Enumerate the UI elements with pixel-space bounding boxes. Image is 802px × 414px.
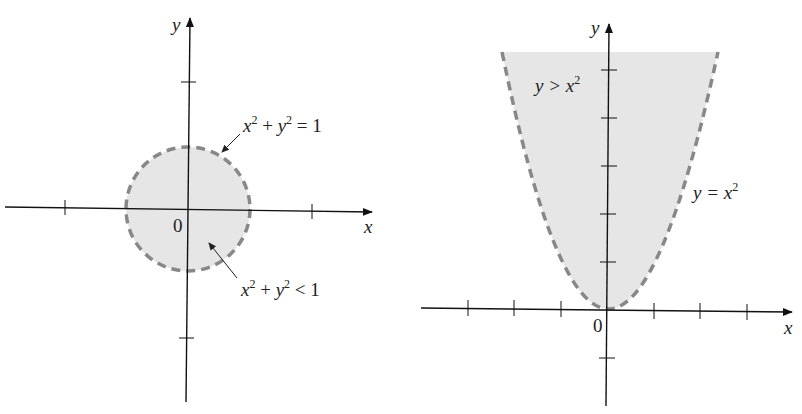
origin-label: 0 bbox=[173, 215, 183, 236]
right-figure: y x 0 y > x2 y = x2 bbox=[421, 17, 793, 406]
origin-label: 0 bbox=[593, 315, 603, 336]
boundary-equation-label: y = x2 bbox=[691, 180, 738, 203]
boundary-pointer-arrow bbox=[222, 134, 240, 152]
boundary-equation-label: x2 + y2 = 1 bbox=[242, 113, 322, 136]
left-figure: y x 0 x2 + y2 = 1 x2 + y2 < 1 bbox=[5, 14, 373, 402]
region-inequality-label: y > x2 bbox=[533, 73, 580, 96]
y-axis-label: y bbox=[589, 17, 600, 38]
y-axis-label: y bbox=[170, 14, 181, 35]
x-axis-label: x bbox=[783, 317, 793, 338]
region-inequality-label: x2 + y2 < 1 bbox=[240, 277, 320, 300]
figure-canvas: y x 0 x2 + y2 = 1 x2 + y2 < 1 bbox=[0, 0, 802, 414]
x-axis-label: x bbox=[363, 216, 373, 237]
